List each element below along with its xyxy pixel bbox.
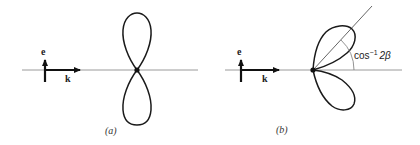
panel-a — [22, 13, 198, 125]
caption-b: (b) — [276, 124, 288, 135]
caption-a: (a) — [105, 125, 117, 136]
label-e-a: e — [41, 46, 45, 57]
label-k-a: k — [65, 73, 71, 84]
label-k-b: k — [262, 73, 268, 84]
origin-dot-b — [310, 67, 315, 72]
label-e-b: e — [237, 46, 241, 57]
origin-dot-a — [134, 67, 139, 72]
angle-label-cos: cos — [354, 50, 370, 61]
diagram-canvas — [0, 0, 420, 145]
lobe-bottom-b — [313, 70, 355, 110]
angle-label-arg: 2β — [380, 50, 391, 61]
angle-label-exp: −1 — [370, 49, 378, 56]
angle-arc — [341, 40, 354, 70]
dipole-lobe-bottom-a — [123, 70, 151, 125]
dipole-lobe-top-a — [123, 13, 151, 70]
angle-label: cos−1 2β — [354, 49, 391, 61]
